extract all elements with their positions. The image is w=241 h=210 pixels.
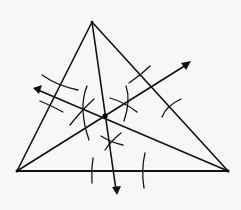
arrowhead-upper-right-icon: [181, 61, 191, 70]
arc-left-upper: [42, 75, 78, 90]
arrowhead-left-icon: [33, 85, 42, 94]
triangle-side-right: [92, 22, 228, 171]
vertex-top: [91, 21, 94, 24]
vertex-right: [227, 170, 230, 173]
incenter-point: [102, 113, 107, 118]
bisector-from-left: [17, 65, 186, 171]
bisector-from-right: [38, 90, 228, 171]
bisector-from-top: [92, 22, 116, 190]
arrowhead-bottom-icon: [112, 186, 121, 195]
arc-cross-left-a: [83, 86, 89, 140]
vertex-left: [16, 170, 19, 173]
incenter-construction-diagram: [0, 0, 241, 210]
triangle: [17, 22, 228, 171]
